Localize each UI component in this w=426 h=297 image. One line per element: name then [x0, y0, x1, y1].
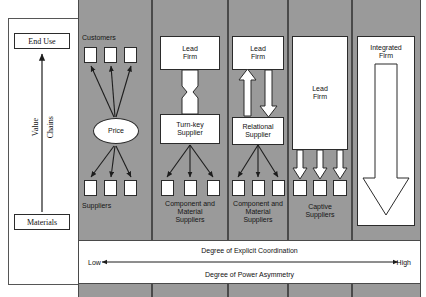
- diagram-root: Market Modular Relational Captive Hierar…: [0, 0, 426, 297]
- legend-arrow-svg: [0, 0, 426, 297]
